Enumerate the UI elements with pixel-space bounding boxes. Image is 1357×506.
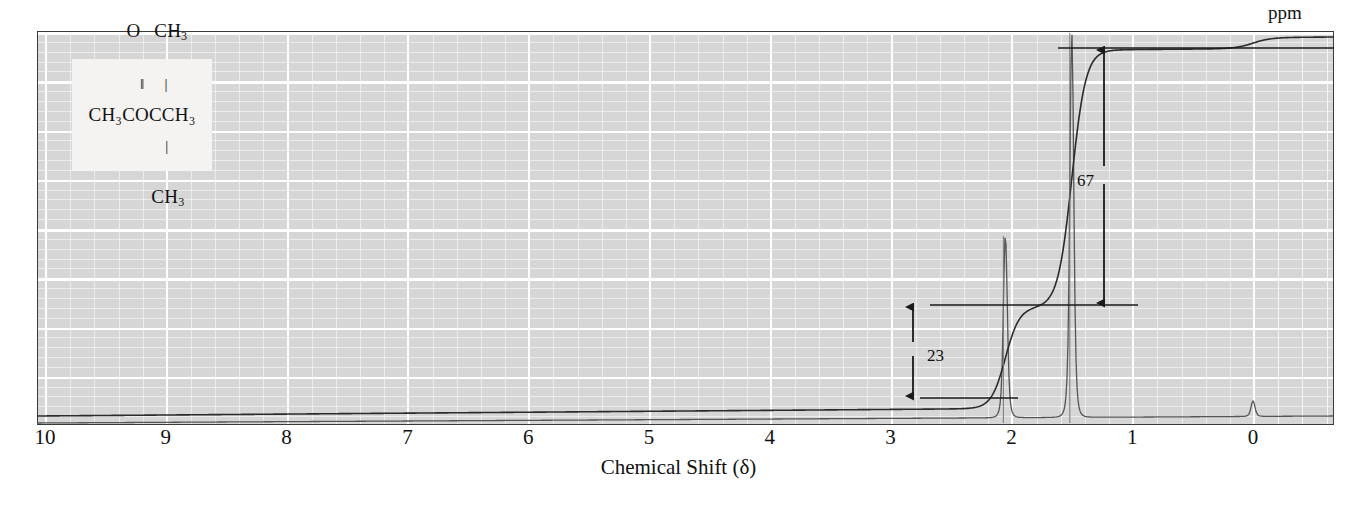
x-tick-6: 6 [508, 425, 548, 450]
x-tick-0: 0 [1233, 425, 1273, 450]
x-axis-tick-labels: 109876543210 [0, 425, 1357, 455]
integral-label-23: 23 [927, 346, 944, 366]
x-tick-7: 7 [387, 425, 427, 450]
x-tick-3: 3 [871, 425, 911, 450]
x-tick-9: 9 [146, 425, 186, 450]
x-tick-1: 1 [1112, 425, 1152, 450]
x-tick-2: 2 [991, 425, 1031, 450]
x-tick-4: 4 [750, 425, 790, 450]
x-axis-title: Chemical Shift (δ) [0, 455, 1357, 480]
integral-label-67: 67 [1077, 171, 1094, 191]
x-tick-10: 10 [25, 425, 65, 450]
x-tick-5: 5 [629, 425, 669, 450]
x-tick-8: 8 [267, 425, 307, 450]
ppm-unit-label: ppm [1268, 2, 1302, 24]
